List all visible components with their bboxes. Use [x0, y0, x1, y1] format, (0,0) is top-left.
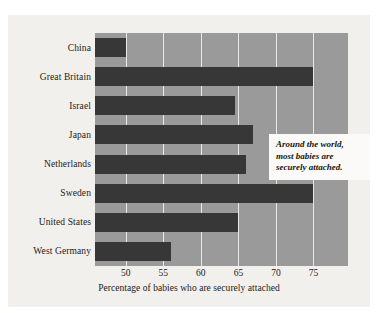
y-axis-label-sweden: Sweden [8, 188, 91, 198]
x-tick-65: 65 [234, 268, 244, 278]
annotation-line-2: most babies are [276, 151, 364, 163]
annotation-line-1: Around the world, [276, 139, 364, 151]
annotation-line-3: securely attached. [276, 162, 364, 174]
x-tick-75: 75 [309, 268, 319, 278]
x-tick-55: 55 [159, 268, 169, 278]
bar-israel [95, 96, 235, 115]
bar-japan [95, 125, 253, 144]
y-axis-category-labels: ChinaGreat BritainIsraelJapanNetherlands… [8, 33, 91, 266]
x-axis-title: Percentage of babies who are securely at… [8, 283, 370, 293]
y-axis-label-great-britain: Great Britain [8, 72, 91, 82]
chart-figure: ChinaGreat BritainIsraelJapanNetherlands… [8, 15, 370, 307]
bar-sweden [95, 184, 313, 203]
y-axis-label-china: China [8, 43, 91, 53]
bar-netherlands [95, 155, 246, 174]
x-tick-60: 60 [196, 268, 206, 278]
bar-west-germany [95, 242, 171, 261]
bar-great-britain [95, 67, 313, 86]
x-tick-50: 50 [121, 268, 131, 278]
y-axis-label-japan: Japan [8, 130, 91, 140]
chart-annotation-callout: Around the world, most babies are secure… [269, 134, 370, 180]
x-tick-70: 70 [271, 268, 281, 278]
y-axis-label-israel: Israel [8, 101, 91, 111]
y-axis-label-united-states: United States [8, 217, 91, 227]
bar-united-states [95, 213, 238, 232]
y-axis-label-west-germany: West Germany [8, 246, 91, 256]
x-axis-tick-labels: 505560657075 [95, 268, 348, 282]
bar-china [95, 38, 126, 57]
y-axis-label-netherlands: Netherlands [8, 159, 91, 169]
